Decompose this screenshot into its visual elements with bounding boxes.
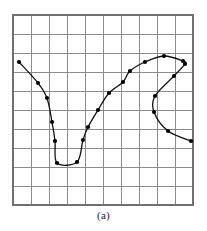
plot-area: [0, 0, 207, 231]
data-point-marker: [53, 139, 57, 143]
data-point-marker: [17, 60, 21, 64]
data-point-marker: [55, 161, 59, 165]
data-point-marker: [36, 81, 40, 85]
data-point-marker: [107, 91, 111, 95]
data-point-marker: [45, 96, 49, 100]
data-point-marker: [143, 60, 147, 64]
data-point-marker: [152, 110, 156, 114]
data-point-marker: [128, 69, 132, 73]
data-point-marker: [162, 54, 166, 58]
data-point-marker: [50, 120, 54, 124]
data-point-marker: [172, 74, 176, 78]
data-point-marker: [189, 139, 193, 143]
data-point-marker: [81, 138, 85, 142]
data-point-marker: [166, 129, 170, 133]
data-point-marker: [121, 80, 125, 84]
data-point-marker: [75, 160, 79, 164]
data-point-marker: [153, 94, 157, 98]
grid-lines: [13, 15, 193, 205]
data-point-marker: [96, 108, 100, 112]
figure-caption: (a): [0, 209, 207, 221]
figure-container: (a): [0, 0, 207, 231]
data-point-marker: [183, 62, 187, 66]
data-point-marker: [86, 125, 90, 129]
